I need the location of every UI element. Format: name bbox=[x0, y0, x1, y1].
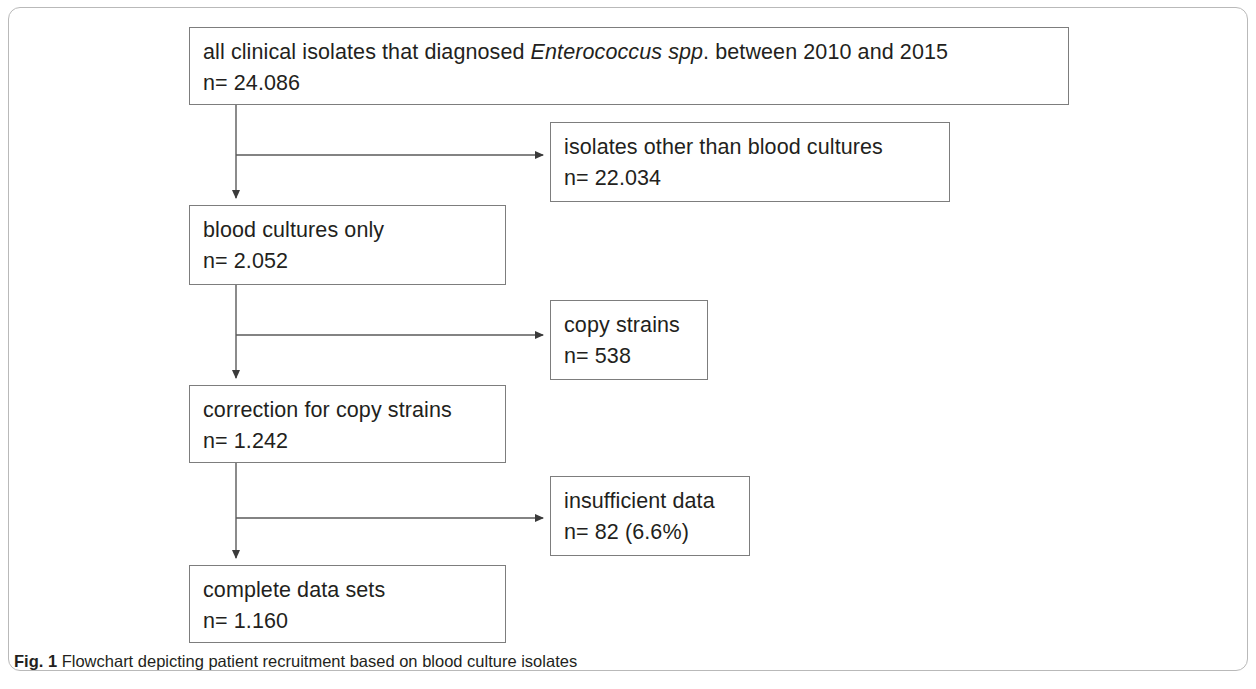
flow-node-other-isolates-title: isolates other than blood cultures bbox=[564, 132, 949, 163]
flow-node-all-isolates-count: n= 24.086 bbox=[203, 68, 1068, 99]
flow-node-other-isolates-count: n= 22.034 bbox=[564, 163, 949, 194]
flow-node-other-isolates: isolates other than blood cultures n= 22… bbox=[550, 122, 950, 202]
flow-node-all-isolates: all clinical isolates that diagnosed Ent… bbox=[189, 27, 1069, 105]
flow-node-blood-cultures-only: blood cultures only n= 2.052 bbox=[189, 205, 506, 285]
flow-node-correction-count: n= 1.242 bbox=[203, 426, 505, 457]
flow-node-blood-cultures-only-count: n= 2.052 bbox=[203, 246, 505, 277]
flow-node-correction-title: correction for copy strains bbox=[203, 395, 505, 426]
flow-node-complete-data-sets: complete data sets n= 1.160 bbox=[189, 565, 506, 643]
flow-node-copy-strains-count: n= 538 bbox=[564, 341, 707, 372]
flow-node-copy-strains: copy strains n= 538 bbox=[550, 300, 708, 380]
flow-node-complete-data-sets-title: complete data sets bbox=[203, 575, 505, 606]
flow-node-all-isolates-title: all clinical isolates that diagnosed Ent… bbox=[203, 37, 1068, 68]
figure-caption-text: Flowchart depicting patient recruitment … bbox=[62, 652, 577, 670]
figure-caption: Fig. 1 Flowchart depicting patient recru… bbox=[14, 650, 1234, 672]
all-isolates-title-suffix: . between 2010 and 2015 bbox=[703, 40, 948, 64]
flow-node-correction-for-copy-strains: correction for copy strains n= 1.242 bbox=[189, 385, 506, 463]
flow-node-insufficient-data-title: insufficient data bbox=[564, 486, 749, 517]
figure-container: all clinical isolates that diagnosed Ent… bbox=[0, 0, 1256, 689]
all-isolates-species-name: Enterococcus spp bbox=[531, 40, 704, 64]
figure-caption-label: Fig. 1 bbox=[14, 652, 57, 670]
flow-node-copy-strains-title: copy strains bbox=[564, 310, 707, 341]
flow-node-insufficient-data: insufficient data n= 82 (6.6%) bbox=[550, 476, 750, 556]
flow-node-insufficient-data-count: n= 82 (6.6%) bbox=[564, 517, 749, 548]
flow-node-blood-cultures-only-title: blood cultures only bbox=[203, 215, 505, 246]
all-isolates-title-prefix: all clinical isolates that diagnosed bbox=[203, 40, 531, 64]
flow-node-complete-data-sets-count: n= 1.160 bbox=[203, 606, 505, 637]
